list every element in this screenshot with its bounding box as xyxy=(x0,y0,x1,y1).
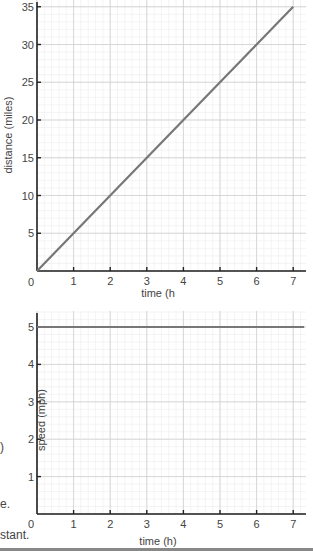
svg-text:0: 0 xyxy=(28,276,34,288)
svg-text:30: 30 xyxy=(22,39,34,51)
y-axis-title: speed (mph) xyxy=(35,389,47,451)
svg-text:7: 7 xyxy=(290,518,296,530)
distance-line xyxy=(37,7,293,271)
margin-text-e: e. xyxy=(0,497,10,511)
speed-chart: 0123456712345time (h)speed (mph) xyxy=(28,311,306,547)
svg-text:2: 2 xyxy=(28,433,34,445)
margin-text-paren: ) xyxy=(0,440,4,454)
svg-text:6: 6 xyxy=(254,518,260,530)
svg-text:2: 2 xyxy=(107,518,113,530)
svg-text:4: 4 xyxy=(180,518,186,530)
svg-text:35: 35 xyxy=(22,1,34,13)
svg-text:5: 5 xyxy=(28,227,34,239)
svg-text:10: 10 xyxy=(22,190,34,202)
distance-speed-charts: 012345675101520253035time (hdistance (mi… xyxy=(0,0,313,551)
svg-text:5: 5 xyxy=(28,321,34,333)
svg-text:3: 3 xyxy=(28,396,34,408)
svg-text:25: 25 xyxy=(22,76,34,88)
svg-text:15: 15 xyxy=(22,152,34,164)
x-axis-title: time (h) xyxy=(139,535,176,547)
svg-text:1: 1 xyxy=(28,471,34,483)
svg-text:5: 5 xyxy=(217,518,223,530)
svg-text:4: 4 xyxy=(180,275,186,287)
x-axis-title: time (h xyxy=(141,287,175,299)
svg-text:6: 6 xyxy=(254,275,260,287)
svg-text:3: 3 xyxy=(144,275,150,287)
svg-text:20: 20 xyxy=(22,114,34,126)
y-axis-title: distance (miles) xyxy=(2,96,14,173)
svg-text:7: 7 xyxy=(290,275,296,287)
svg-text:1: 1 xyxy=(71,518,77,530)
svg-text:5: 5 xyxy=(217,275,223,287)
svg-text:4: 4 xyxy=(28,358,34,370)
svg-text:3: 3 xyxy=(144,518,150,530)
svg-text:2: 2 xyxy=(107,275,113,287)
distance-chart: 012345675101520253035time (hdistance (mi… xyxy=(2,0,306,299)
margin-text-stant: stant. xyxy=(0,528,29,542)
svg-text:1: 1 xyxy=(71,275,77,287)
